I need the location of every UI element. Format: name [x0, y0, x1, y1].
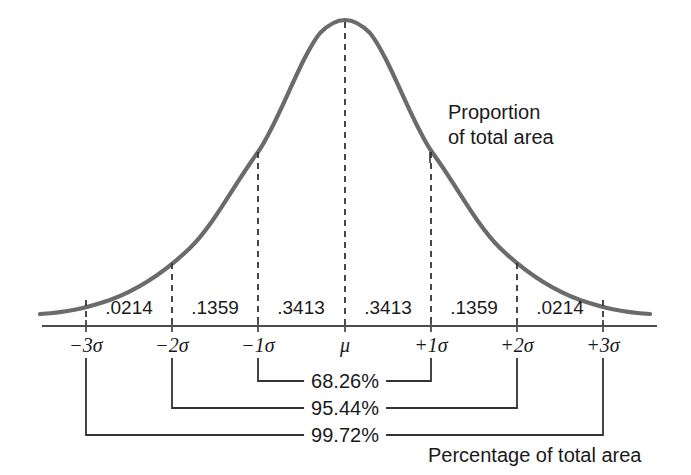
axis-tick-plus1sigma: +1σ [414, 334, 447, 357]
proportion-value-4: .3413 [364, 297, 412, 319]
bracket-label-99-72: 99.72% [304, 424, 386, 447]
proportion-value-2: .1359 [191, 297, 239, 319]
proportion-value-5: .1359 [450, 297, 498, 319]
proportion-value-3: .3413 [277, 297, 325, 319]
axis-tick-mu: μ [340, 334, 350, 357]
axis-tick-plus3sigma: +3σ [586, 334, 619, 357]
percentage-of-total-area-label: Percentage of total area [428, 443, 641, 468]
proportion-value-1: .0214 [105, 297, 153, 319]
bracket-label-95-44: 95.44% [304, 397, 386, 420]
proportion-of-total-area-label: Proportion of total area [448, 100, 554, 150]
axis-tick-minus2sigma: −2σ [155, 334, 188, 357]
axis-tick-minus3sigma: −3σ [69, 334, 102, 357]
normal-distribution-figure: .0214 .1359 .3413 .3413 .1359 .0214 −3σ … [0, 0, 691, 475]
proportion-value-6: .0214 [536, 297, 584, 319]
proportion-label-line-2: of total area [448, 125, 554, 150]
bracket-label-68-26: 68.26% [304, 370, 386, 393]
axis-tick-minus1sigma: −1σ [241, 334, 274, 357]
axis-tick-plus2sigma: +2σ [500, 334, 533, 357]
proportion-label-line-1: Proportion [448, 100, 554, 125]
